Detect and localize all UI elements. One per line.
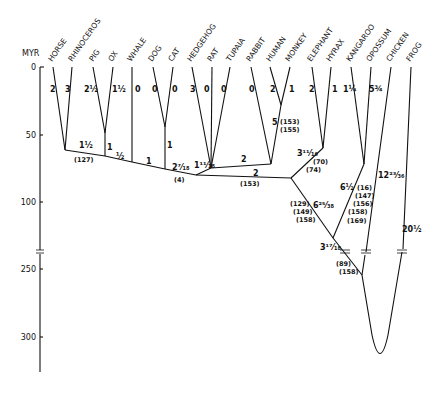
taxon-label-whale: WHALE: [125, 36, 148, 64]
branch-length: 6½: [340, 182, 354, 192]
branch-length: 1: [289, 85, 295, 94]
reference-number: (129): [290, 200, 310, 208]
reference-number: (4): [174, 176, 184, 184]
branch-length: 0: [221, 85, 227, 94]
branch-length: 0: [135, 85, 141, 94]
branch-length: 0: [249, 85, 255, 94]
branch-length: 1½: [112, 84, 126, 94]
reference-number: (158): [348, 208, 368, 216]
taxon-label-cat: CAT: [166, 46, 182, 63]
branch-length: 2⁷⁄₁₈: [172, 163, 190, 172]
reference-number: (74): [306, 166, 321, 174]
reference-number: (153): [240, 180, 260, 188]
branch-length: 2: [309, 85, 315, 94]
branch-length: 5¾: [369, 85, 383, 94]
axis-title: MYR: [22, 49, 40, 58]
branch-length: 2: [241, 155, 247, 164]
reference-number: (169): [347, 217, 367, 225]
branch-length: 1¼: [343, 84, 357, 94]
taxon-label-frog: FROG: [404, 40, 424, 63]
phylogenetic-tree-diagram: MYR 0 50 100 250 300 HORSE RHINOCEROS PI…: [0, 0, 440, 397]
branch-length: 20½: [402, 224, 421, 234]
reference-number: (158): [339, 268, 359, 276]
branch-length: 1½: [79, 140, 93, 150]
branch-length: 0: [172, 85, 178, 94]
branch-length: 2½: [84, 84, 98, 94]
branch-length: 3¹⁷⁄₁₈: [320, 243, 341, 252]
reference-number: (147): [355, 192, 375, 200]
branch-length-labels: 2 3 2½ 1½ 0 0 0 3 0 0 0 2 1 2 1 1¼ 5¾ 1½…: [50, 84, 421, 276]
reference-number: (158): [296, 216, 316, 224]
reference-number: (70): [313, 158, 328, 166]
branch-length: 1: [167, 141, 173, 150]
branch-length: 6²⁵⁄₃₈: [313, 201, 334, 210]
branch-length: 2: [253, 169, 259, 178]
branch-length: 1: [146, 157, 152, 166]
branch-length: 0: [152, 85, 158, 94]
reference-number: (155): [280, 126, 300, 134]
taxon-label-dog: DOG: [146, 44, 164, 64]
reference-number: (127): [74, 156, 94, 164]
branch-length: 3: [190, 85, 196, 94]
branch-length: 5: [272, 118, 278, 127]
reference-number: (153): [280, 118, 300, 126]
axis-tick-label: 250: [21, 265, 36, 274]
taxon-label-tupaia: TUPAIA: [224, 35, 248, 63]
branch-length: 3: [65, 85, 71, 94]
taxon-label-rat: RAT: [205, 46, 221, 63]
reference-number: (16): [357, 184, 372, 192]
taxon-label-rabbit: RABBIT: [244, 35, 267, 63]
taxon-label-ox: OX: [106, 49, 119, 63]
branch-length: 1: [107, 143, 113, 152]
branch-length: 2: [50, 85, 56, 94]
axis-tick-label: 50: [26, 131, 36, 140]
branch-length: 2: [270, 85, 276, 94]
branch-length: 12²³⁄₃₆: [378, 171, 405, 180]
reference-number: (89): [336, 260, 351, 268]
reference-number: (156): [353, 200, 373, 208]
branch-length: 0: [204, 85, 210, 94]
axis-tick-label: 300: [21, 333, 36, 342]
axis-tick-label: 0: [31, 63, 36, 72]
branch-length: 1: [332, 85, 338, 94]
axis-tick-label: 100: [21, 198, 36, 207]
taxon-label-pig: PIG: [87, 48, 102, 64]
reference-number: (149): [293, 208, 313, 216]
branch-length: 3¹¹⁄₁₆: [297, 149, 318, 158]
taxon-labels: HORSE RHINOCEROS PIG OX WHALE DOG CAT HE…: [46, 16, 424, 63]
branch-length: 1¹¹⁄₁₈: [194, 161, 215, 170]
taxon-label-horse: HORSE: [46, 36, 69, 63]
branch-length: ½: [116, 151, 124, 161]
